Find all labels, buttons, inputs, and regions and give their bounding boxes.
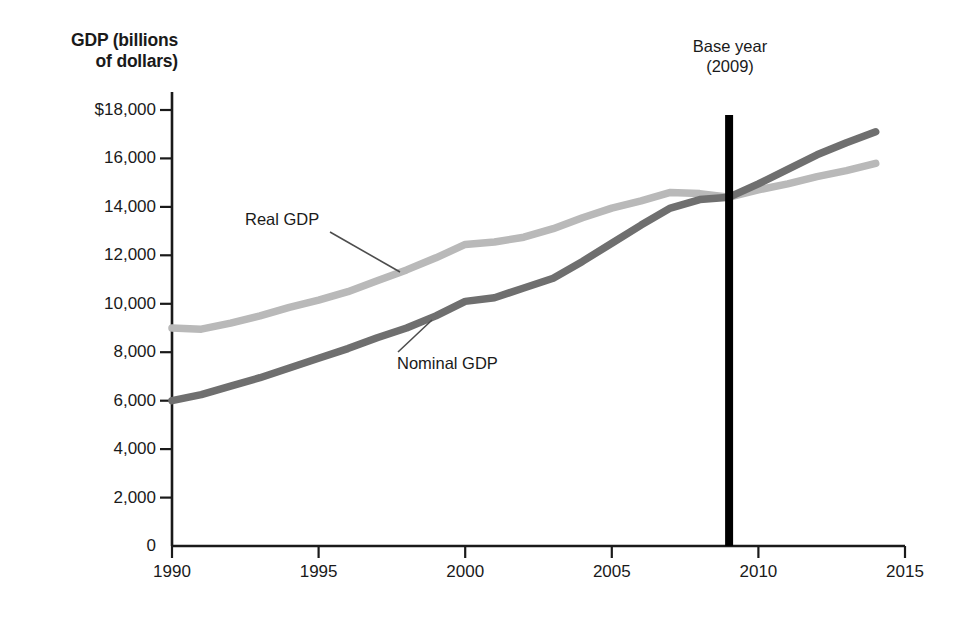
real-gdp-series-label: Real GDP xyxy=(245,209,319,229)
base-year-annotation-line2: (2009) xyxy=(706,57,754,75)
y-axis-title-line2: of dollars) xyxy=(96,51,178,71)
x-tick-label: 2015 xyxy=(860,562,950,583)
real-gdp-leader-line xyxy=(330,232,400,272)
y-tick-label: 6,000 xyxy=(28,391,156,412)
x-tick-label: 1990 xyxy=(127,562,217,583)
x-tick-label: 2005 xyxy=(567,562,657,583)
y-tick-label: 0 xyxy=(28,536,156,557)
series-nominal-gdp xyxy=(172,132,876,401)
y-axis-title: GDP (billionsof dollars) xyxy=(18,30,178,73)
y-tick-label: 14,000 xyxy=(28,197,156,218)
x-tick-label: 2010 xyxy=(713,562,803,583)
y-tick-label: 10,000 xyxy=(28,294,156,315)
y-tick-label: 2,000 xyxy=(28,488,156,509)
nominal-gdp-series-label: Nominal GDP xyxy=(397,353,498,373)
x-tick-label: 1995 xyxy=(274,562,364,583)
y-tick-label: 12,000 xyxy=(28,245,156,266)
x-axis-ticks xyxy=(172,546,905,558)
base-year-annotation-line1: Base year xyxy=(693,37,767,55)
base-year-annotation: Base year(2009) xyxy=(640,36,820,76)
y-tick-label: 8,000 xyxy=(28,342,156,363)
series-real-gdp xyxy=(172,163,876,329)
y-axis-ticks xyxy=(160,110,172,498)
x-tick-label: 2000 xyxy=(420,562,510,583)
y-tick-label: $18,000 xyxy=(28,100,156,121)
y-tick-label: 4,000 xyxy=(28,439,156,460)
y-tick-label: 16,000 xyxy=(28,148,156,169)
y-axis-title-line1: GDP (billions xyxy=(71,30,178,50)
gdp-chart-figure: GDP (billionsof dollars) $18,000 16,000 … xyxy=(0,0,971,619)
